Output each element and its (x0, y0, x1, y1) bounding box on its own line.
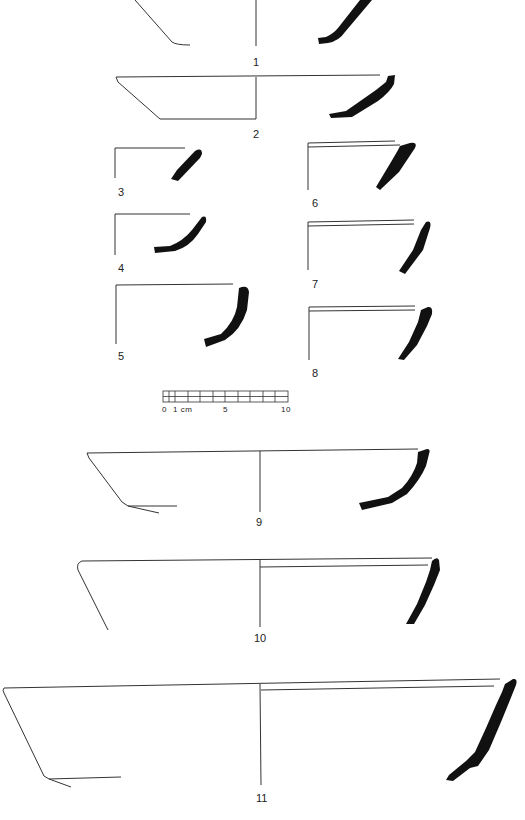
vessel-1-outline (135, 0, 256, 46)
vessel-11-outline (3, 679, 500, 787)
vessel-label-10: 10 (254, 632, 266, 644)
vessel-7-sherd (399, 222, 431, 274)
vessel-6-sherd (376, 143, 416, 190)
vessel-11-sherd (446, 679, 517, 781)
scale-label-1cm: 1 cm (173, 405, 192, 414)
vessel-5-sherd (204, 287, 249, 347)
vessel-label-6: 6 (312, 197, 318, 209)
scale-label-0: 0 (162, 405, 167, 414)
vessel-label-4: 4 (118, 262, 124, 274)
vessel-8-sherd (398, 307, 432, 360)
scale-bar (163, 391, 288, 402)
vessel-7-outline (308, 220, 414, 270)
vessel-3-outline (115, 148, 185, 178)
vessel-label-2: 2 (253, 128, 259, 140)
vessel-10-outline (78, 558, 433, 630)
vessel-label-9: 9 (256, 516, 262, 528)
vessel-label-7: 7 (312, 278, 318, 290)
vessel-10-sherd (406, 558, 440, 624)
vessel-label-5: 5 (118, 350, 124, 362)
vessel-5-outline (116, 284, 233, 344)
profile-drawings (0, 0, 525, 820)
vessel-3-sherd (171, 150, 202, 181)
scale-label-10: 10 (281, 405, 291, 414)
vessel-4-sherd (154, 217, 206, 253)
vessel-label-1: 1 (253, 56, 259, 68)
vessel-label-3: 3 (118, 186, 124, 198)
vessel-9-sherd (359, 449, 430, 510)
vessel-label-11: 11 (256, 792, 267, 804)
vessel-1-sherd (318, 0, 372, 44)
vessel-label-8: 8 (312, 367, 318, 379)
vessel-2-sherd (329, 75, 395, 118)
pottery-plate: 1 2 3 4 5 6 7 8 9 10 11 0 1 cm 5 10 (0, 0, 525, 820)
vessel-8-outline (309, 306, 415, 360)
scale-label-5: 5 (223, 405, 228, 414)
